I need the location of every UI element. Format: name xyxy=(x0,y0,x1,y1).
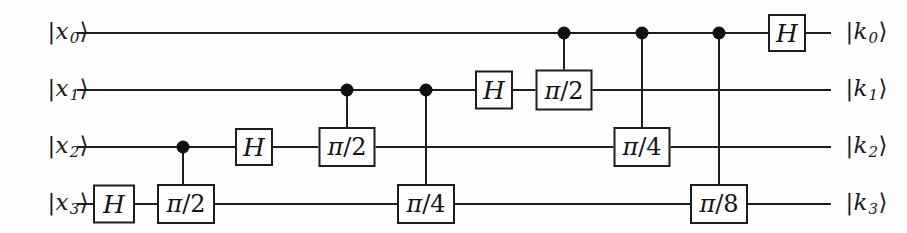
gate-phase-pi4-q2-pi-symbol: π xyxy=(622,135,638,159)
output-label-k3-base: |k xyxy=(845,189,868,215)
input-label-x3-ket-close: ⟩ xyxy=(79,189,88,215)
gate-phase-pi2-q2-pi-symbol: π xyxy=(327,135,343,159)
input-label-x1-ket-close: ⟩ xyxy=(79,75,88,101)
input-label-x2: |x2⟩ xyxy=(47,132,89,161)
output-label-k1-ket-close: ⟩ xyxy=(878,75,887,101)
output-label-k0-subscript: 0 xyxy=(869,30,879,48)
control-dot-q2-to-q3 xyxy=(177,141,190,154)
input-label-x0-ket-close: ⟩ xyxy=(79,18,88,44)
gate-phase-pi4-q3: π/4 xyxy=(397,184,455,224)
gate-h-q1-label: H xyxy=(483,78,505,103)
gate-h-q1: H xyxy=(475,71,513,110)
output-label-k1-base: |k xyxy=(845,75,868,101)
gate-phase-pi2-q2-denominator: /2 xyxy=(343,135,366,159)
control-dot-q0-to-q1 xyxy=(558,27,571,40)
output-label-k3-ket-close: ⟩ xyxy=(878,189,887,215)
gate-phase-pi2-q1-pi-symbol: π xyxy=(544,78,560,102)
input-label-x0: |x0⟩ xyxy=(47,18,89,47)
output-label-k1-subscript: 1 xyxy=(869,87,879,105)
gate-phase-pi2-q1-denominator: /2 xyxy=(560,78,583,102)
gate-phase-pi8-q3-denominator: /8 xyxy=(715,192,738,216)
quantum-circuit-diagram: Hπ/2Hπ/2π/4Hπ/2π/4π/8H |x0⟩|x1⟩|x2⟩|x3⟩|… xyxy=(0,0,907,233)
gate-phase-pi8-q3-pi-symbol: π xyxy=(699,192,715,216)
gate-phase-pi2-q3: π/2 xyxy=(157,184,215,224)
output-label-k0-ket-close: ⟩ xyxy=(878,18,887,44)
output-label-k2-base: |k xyxy=(845,132,868,158)
control-dot-q1-to-q2 xyxy=(341,84,354,97)
input-label-x1-subscript: 1 xyxy=(70,87,80,105)
input-label-x3-subscript: 3 xyxy=(70,201,80,219)
control-dot-q0-to-q3-line xyxy=(718,33,720,204)
output-label-k0: |k0⟩ xyxy=(845,18,888,47)
gate-phase-pi2-q1: π/2 xyxy=(536,70,593,111)
control-dot-q0-to-q2 xyxy=(636,27,649,40)
output-label-k3-subscript: 3 xyxy=(869,201,879,219)
gate-phase-pi4-q3-pi-symbol: π xyxy=(406,192,422,216)
gate-phase-pi4-q2-denominator: /4 xyxy=(638,135,661,159)
gate-phase-pi2-q3-pi-symbol: π xyxy=(166,192,182,216)
gate-h-q2-label: H xyxy=(243,135,265,160)
control-dot-q1-to-q3 xyxy=(420,84,433,97)
input-label-x2-ket-close: ⟩ xyxy=(79,132,88,158)
gate-h-q3: H xyxy=(93,185,135,224)
gate-phase-pi8-q3: π/8 xyxy=(690,184,748,224)
output-label-k3: |k3⟩ xyxy=(845,189,888,218)
output-label-k2: |k2⟩ xyxy=(845,132,888,161)
gate-phase-pi4-q3-denominator: /4 xyxy=(422,192,445,216)
output-label-k1: |k1⟩ xyxy=(845,75,888,104)
gate-phase-pi2-q3-denominator: /2 xyxy=(182,192,205,216)
gate-h-q3-label: H xyxy=(103,192,125,217)
input-label-x1: |x1⟩ xyxy=(47,75,89,104)
output-label-k2-ket-close: ⟩ xyxy=(878,132,887,158)
input-label-x2-base: |x xyxy=(47,132,69,158)
input-label-x3-base: |x xyxy=(47,189,69,215)
control-dot-q0-to-q3 xyxy=(713,27,726,40)
gate-phase-pi2-q2: π/2 xyxy=(319,127,376,167)
input-label-x0-base: |x xyxy=(47,18,69,44)
input-label-x0-subscript: 0 xyxy=(70,30,80,48)
gate-h-q2: H xyxy=(235,128,273,166)
input-label-x3: |x3⟩ xyxy=(47,189,89,218)
input-label-x1-base: |x xyxy=(47,75,69,101)
output-label-k0-base: |k xyxy=(845,18,868,44)
gate-h-q0: H xyxy=(768,14,806,52)
input-label-x2-subscript: 2 xyxy=(70,144,80,162)
gate-h-q0-label: H xyxy=(776,21,798,46)
output-label-k2-subscript: 2 xyxy=(869,144,879,162)
gate-phase-pi4-q2: π/4 xyxy=(614,127,671,167)
